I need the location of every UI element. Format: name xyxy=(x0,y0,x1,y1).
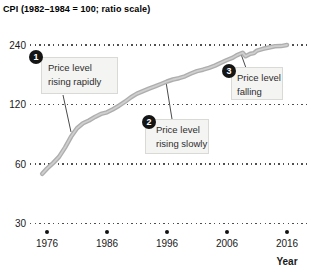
annotation-1-number-badge: 1 xyxy=(29,50,43,64)
annotation-2-label-line1: Price level xyxy=(156,123,206,137)
annotation-3-label-line1: Price level xyxy=(237,71,280,85)
annotation-3-label-line2: falling xyxy=(237,85,280,99)
annotation-2-label-line2: rising slowly xyxy=(156,137,206,151)
annotation-1-label-line1: Price level xyxy=(48,61,115,75)
annotation-1-pointer-line xyxy=(63,95,71,132)
annotation-3-box: Price levelfalling xyxy=(231,67,283,100)
annotation-2-number-badge: 2 xyxy=(142,115,156,129)
x-axis-title: Year xyxy=(271,256,303,268)
annotation-3-number-badge: 3 xyxy=(222,64,236,78)
annotation-2-pointer-line xyxy=(166,82,172,119)
cpi-ratio-scale-chart: CPI (1982–1984 = 100; ratio scale) 24012… xyxy=(0,0,318,275)
annotation-1-box: Price levelrising rapidly xyxy=(41,57,118,94)
annotation-1-label-line2: rising rapidly xyxy=(48,75,115,89)
